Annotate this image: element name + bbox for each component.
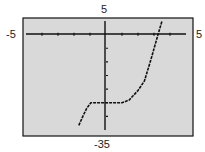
xmax-label: 5 bbox=[196, 29, 202, 40]
graph-screen bbox=[23, 18, 193, 136]
ymin-label: -35 bbox=[94, 139, 110, 150]
graph-canvas bbox=[0, 0, 205, 152]
ymax-label: 5 bbox=[101, 4, 107, 15]
xmin-label: -5 bbox=[6, 29, 16, 40]
